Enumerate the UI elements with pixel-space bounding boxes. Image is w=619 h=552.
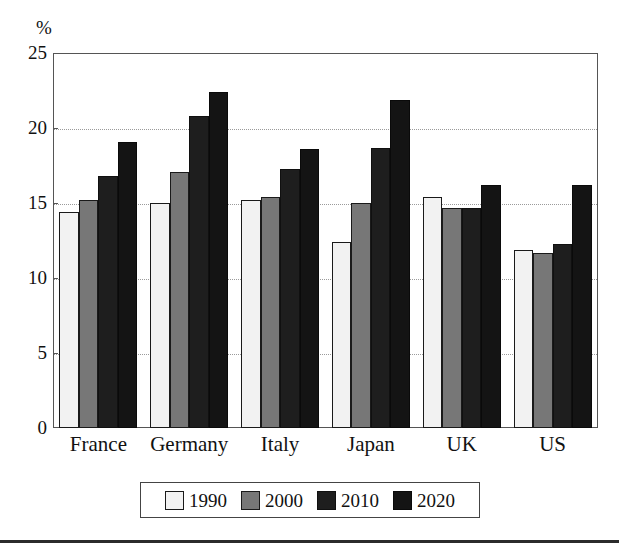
- bar-italy-2000: [261, 197, 281, 428]
- y-tick-label-15: 15: [3, 193, 47, 212]
- y-tick-label-20: 20: [3, 118, 47, 137]
- bar-group-france: [59, 53, 137, 428]
- y-tick-label-10: 10: [3, 268, 47, 287]
- legend-item-1990[interactable]: 1990: [165, 491, 227, 510]
- y-axis-tick-labels: 0510152025: [0, 53, 47, 428]
- y-tick-label-25: 25: [3, 43, 47, 62]
- y-tick-label-5: 5: [3, 343, 47, 362]
- bar-italy-1990: [241, 200, 261, 428]
- bar-uk-2020: [481, 185, 501, 428]
- y-axis-unit-label: %: [36, 18, 52, 37]
- legend-swatch-1990: [165, 491, 184, 510]
- legend-item-2000[interactable]: 2000: [241, 491, 303, 510]
- bar-france-1990: [59, 212, 79, 428]
- bar-group-italy: [241, 53, 319, 428]
- bar-us-1990: [514, 250, 534, 429]
- legend-swatch-2020: [393, 491, 412, 510]
- bar-germany-2020: [209, 92, 229, 428]
- chart-figure: % 0510152025 FranceGermanyItalyJapanUKUS…: [0, 0, 619, 552]
- bar-italy-2020: [300, 149, 320, 428]
- x-tick-label-uk: UK: [416, 432, 507, 456]
- bar-japan-2000: [351, 203, 371, 428]
- bar-germany-2010: [189, 116, 209, 428]
- y-tick-mark-15: [53, 203, 58, 204]
- x-tick-label-germany: Germany: [144, 432, 235, 456]
- bar-germany-2000: [170, 172, 190, 429]
- legend-label-1990: 1990: [189, 491, 227, 510]
- legend-item-2010[interactable]: 2010: [317, 491, 379, 510]
- bar-uk-2000: [442, 208, 462, 429]
- bar-italy-2010: [280, 169, 300, 429]
- y-tick-mark-5: [53, 353, 58, 354]
- bar-uk-2010: [462, 208, 482, 429]
- x-tick-label-japan: Japan: [326, 432, 417, 456]
- y-tick-mark-20: [53, 128, 58, 129]
- bar-japan-1990: [332, 242, 352, 428]
- bar-japan-2010: [371, 148, 391, 429]
- bar-france-2010: [98, 176, 118, 428]
- bar-us-2000: [533, 253, 553, 429]
- bar-france-2000: [79, 200, 99, 428]
- legend-swatch-2000: [241, 491, 260, 510]
- bar-france-2020: [118, 142, 138, 429]
- x-tick-label-us: US: [507, 432, 598, 456]
- bars-layer: [53, 53, 598, 428]
- y-tick-label-0: 0: [3, 418, 47, 437]
- bar-uk-1990: [423, 197, 443, 428]
- x-axis-tick-labels: FranceGermanyItalyJapanUKUS: [53, 432, 598, 462]
- legend-swatch-2010: [317, 491, 336, 510]
- legend-label-2020: 2020: [417, 491, 455, 510]
- bar-germany-1990: [150, 203, 170, 428]
- bar-group-uk: [423, 53, 501, 428]
- x-tick-label-france: France: [53, 432, 144, 456]
- y-tick-mark-10: [53, 278, 58, 279]
- bar-group-us: [514, 53, 592, 428]
- bar-group-japan: [332, 53, 410, 428]
- legend-item-2020[interactable]: 2020: [393, 491, 455, 510]
- bar-us-2020: [572, 185, 592, 428]
- bar-us-2010: [553, 244, 573, 429]
- chart-legend: 1990200020102020: [140, 482, 480, 518]
- legend-label-2010: 2010: [341, 491, 379, 510]
- bottom-divider-rule: [0, 540, 619, 543]
- bar-japan-2020: [390, 100, 410, 429]
- legend-label-2000: 2000: [265, 491, 303, 510]
- bar-group-germany: [150, 53, 228, 428]
- x-tick-label-italy: Italy: [235, 432, 326, 456]
